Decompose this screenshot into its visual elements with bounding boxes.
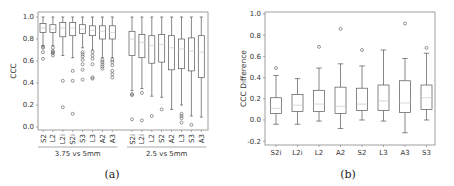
iqr-box: [314, 90, 325, 111]
box-plot: [335, 27, 346, 128]
iqr-box: [60, 23, 66, 37]
y-tick-label: 1.0: [23, 13, 34, 21]
x-tick-label: L3: [178, 134, 186, 142]
x-tick-label: A3: [198, 134, 206, 143]
outlier-point: [131, 118, 134, 121]
x-tick-label: L2i: [59, 134, 67, 144]
box-plot: [292, 79, 303, 125]
x-tick-label: S3: [79, 134, 87, 143]
outlier-point: [81, 58, 84, 61]
outlier-point: [51, 46, 54, 49]
outlier-point: [111, 76, 114, 79]
box-plot: [90, 17, 96, 80]
outlier-point: [61, 79, 64, 82]
outlier-point: [81, 68, 84, 71]
outlier-point: [150, 115, 153, 118]
iqr-box: [378, 85, 389, 110]
outlier-point: [180, 117, 183, 120]
outlier-point: [339, 27, 342, 30]
y-tick-label: 0.4: [23, 79, 35, 87]
x-tick-label: S2: [40, 134, 48, 143]
outlier-point: [61, 106, 64, 109]
iqr-box: [271, 98, 282, 114]
x-tick-label: L2: [49, 134, 57, 142]
outlier-point: [425, 46, 428, 49]
y-axis-label: CCC: [9, 63, 18, 79]
group-label: 3.75 vs 5mm: [55, 150, 101, 158]
iqr-box: [335, 87, 346, 114]
figure-canvas: 0.00.20.40.60.81.0CCCS2L2L2iS2iS3L3A2A33…: [0, 0, 454, 186]
x-tick-label: A2: [99, 134, 107, 143]
box-plot: [129, 17, 135, 121]
y-tick-label: 0.4: [250, 74, 262, 82]
outlier-point: [190, 123, 193, 126]
box-plot: [357, 49, 368, 120]
y-tick-label: 0.0: [23, 123, 34, 131]
outlier-point: [71, 112, 74, 115]
iqr-box: [169, 36, 175, 70]
box-plot: [149, 17, 155, 118]
box-plot: [421, 46, 432, 120]
x-tick-label: S2i: [271, 149, 282, 157]
iqr-box: [129, 31, 135, 55]
outlier-point: [160, 108, 163, 111]
outlier-point: [42, 57, 45, 60]
outlier-point: [404, 22, 407, 25]
iqr-box: [292, 95, 303, 112]
x-tick-label: L2: [315, 149, 323, 157]
iqr-box: [400, 81, 411, 113]
iqr-box: [198, 36, 204, 78]
x-tick-label: L2: [148, 134, 156, 142]
outlier-point: [71, 69, 74, 72]
x-tick-label: L3: [379, 149, 387, 157]
x-tick-label: L3: [89, 134, 97, 142]
iqr-box: [90, 26, 96, 36]
box-plot: [50, 17, 56, 57]
iqr-box: [99, 26, 105, 39]
box-plot: [80, 17, 86, 81]
x-tick-label: A2: [168, 134, 176, 143]
outlier-point: [81, 78, 84, 81]
y-tick-label: 0.2: [23, 101, 34, 109]
outlier-point: [111, 69, 114, 72]
box-plot: [70, 17, 76, 115]
y-tick-label: 0.8: [23, 35, 34, 43]
x-tick-label: S2i: [129, 134, 137, 145]
x-tick-label: A3: [400, 149, 409, 157]
box-plot: [40, 17, 46, 60]
box-plot: [179, 17, 185, 124]
x-tick-label: S2: [358, 149, 367, 157]
x-tick-label: S3: [188, 134, 196, 143]
box-plot: [271, 67, 282, 125]
x-tick-label: L2i: [138, 134, 146, 144]
outlier-point: [275, 67, 278, 70]
iqr-box: [179, 39, 185, 69]
x-tick-label: A2: [336, 149, 345, 157]
x-tick-label: L2i: [292, 149, 302, 157]
box-plot: [139, 17, 145, 122]
x-tick-label: S2: [158, 134, 166, 143]
x-tick-label: A3: [109, 134, 117, 143]
x-tick-label: S3: [422, 149, 431, 157]
outlier-point: [91, 51, 94, 54]
y-tick-label: 0.2: [250, 95, 261, 103]
iqr-box: [421, 85, 432, 109]
outlier-point: [91, 63, 94, 66]
box-plot: [109, 17, 115, 79]
outlier-point: [140, 91, 143, 94]
outlier-point: [101, 67, 104, 70]
outlier-point: [111, 64, 114, 67]
outlier-point: [180, 121, 183, 124]
plot-frame: [265, 12, 435, 145]
iqr-box: [357, 88, 368, 110]
box-plot: [188, 17, 194, 126]
y-axis-label: CCC Difference: [239, 50, 248, 107]
box-plot: [60, 17, 66, 109]
group-label: 2.5 vs 5mm: [146, 150, 188, 158]
box-group: S2iL2iL2S2A2L3S3A32.5 vs 5mm: [127, 17, 206, 158]
outlier-point: [71, 79, 74, 82]
box-plot: [378, 50, 389, 121]
box-plot: [159, 17, 165, 111]
outlier-point: [111, 73, 114, 76]
iqr-box: [149, 36, 155, 64]
